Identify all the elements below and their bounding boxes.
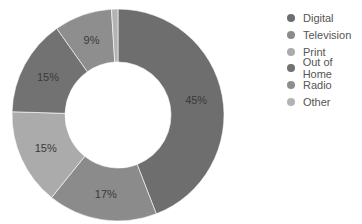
segment-label: 17% — [95, 188, 117, 200]
segment-label: 15% — [35, 142, 57, 154]
legend-swatch-icon — [287, 48, 295, 56]
legend-label: Digital — [303, 12, 334, 24]
legend-item: Other — [287, 93, 362, 110]
legend-label: Out of Home — [303, 56, 362, 80]
legend-item: Digital — [287, 10, 362, 27]
legend-label: Television — [303, 29, 351, 41]
legend-item: Television — [287, 27, 362, 44]
legend-item: Out of Home — [287, 60, 362, 77]
segment-label: 45% — [185, 94, 207, 106]
segment-label: 9% — [84, 34, 100, 46]
legend: Digital Television Print Out of Home Rad… — [287, 10, 362, 110]
legend-swatch-icon — [287, 81, 295, 89]
donut-chart: 45%17%15%15%9% — [0, 0, 240, 224]
legend-label: Radio — [303, 79, 332, 91]
legend-swatch-icon — [287, 64, 295, 72]
legend-swatch-icon — [287, 98, 295, 106]
legend-swatch-icon — [287, 31, 295, 39]
legend-label: Other — [303, 96, 331, 108]
legend-swatch-icon — [287, 14, 295, 22]
segment-label: 15% — [37, 71, 59, 83]
